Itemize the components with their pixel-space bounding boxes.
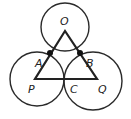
geometry-diagram: O A B P C Q — [0, 0, 131, 119]
label-c: C — [70, 83, 78, 96]
point-a-dot — [47, 50, 53, 56]
label-b: B — [86, 57, 94, 70]
label-q: Q — [98, 83, 107, 96]
point-b-dot — [77, 50, 83, 56]
label-p: P — [28, 83, 35, 96]
label-a: A — [34, 57, 43, 70]
label-o: O — [60, 15, 69, 28]
